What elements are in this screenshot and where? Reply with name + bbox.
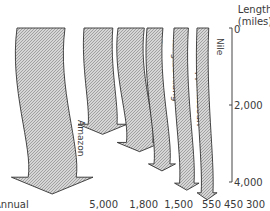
annual-flow-value: 450 [224,199,243,210]
annual-flow-value: 300 [246,199,265,210]
river-comparison-diagram: AmazonLa PlataCongoYangtze-KiangMississi… [0,0,270,211]
river-arrow-nile [196,28,217,200]
scale-tick-label: 2,000 [234,100,263,111]
river-arrows: AmazonLa PlataCongoYangtze-KiangMississi… [11,28,224,200]
river-arrow-mississippi-missouri [173,28,199,190]
scale-tick-label: 0 [234,24,240,35]
scale-title-line2: (miles) [238,16,270,27]
annual-flow-labels: 5,0001,8001,500550450300 [89,199,265,210]
annual-flow-value: 1,500 [164,199,193,210]
scale-tick-label: 4,000 [234,177,263,188]
scale-title-line1: Length [238,4,270,15]
annual-flow-row-label: Annual [0,199,29,210]
river-name-label: Nile [215,38,225,56]
annual-flow-value: 5,000 [89,199,118,210]
annual-flow-value: 550 [202,199,221,210]
length-scale: Length (miles) 0 2,000 4,000 [229,4,270,188]
river-arrow-amazon [11,28,93,194]
annual-flow-value: 1,800 [129,199,158,210]
